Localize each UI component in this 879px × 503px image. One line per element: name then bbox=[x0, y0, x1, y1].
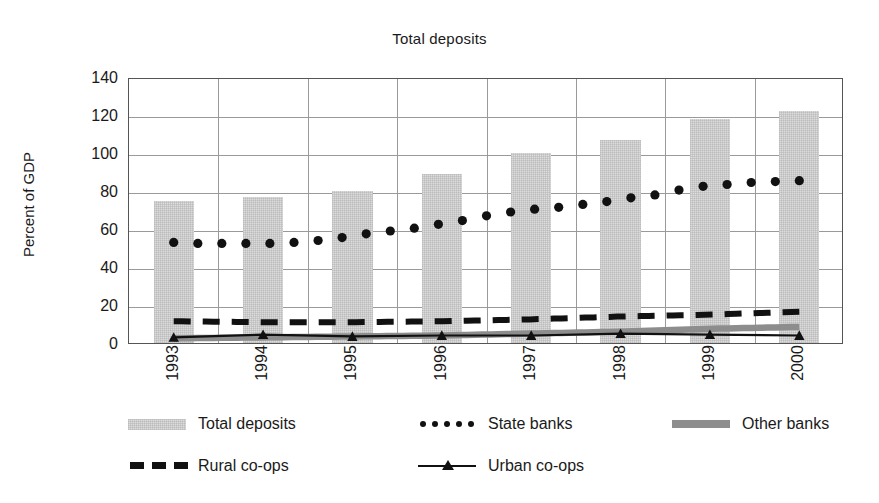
legend-item-label: State banks bbox=[488, 415, 573, 433]
state-banks-dot bbox=[241, 239, 250, 248]
state-banks-dot bbox=[530, 205, 539, 214]
legend-item[interactable]: Urban co-ops bbox=[418, 446, 584, 486]
legend-item-label: Other banks bbox=[742, 415, 829, 433]
legend-row: Rural co-opsUrban co-ops bbox=[0, 446, 879, 486]
other-banks-line bbox=[174, 327, 800, 339]
state-banks-dot bbox=[771, 177, 780, 186]
state-banks-dot bbox=[289, 238, 298, 247]
legend-item[interactable]: Other banks bbox=[672, 404, 829, 444]
state-banks-dot bbox=[747, 178, 756, 187]
plot-area bbox=[128, 78, 843, 344]
legend-swatch-state-banks bbox=[418, 415, 476, 433]
state-banks-dot bbox=[674, 186, 683, 195]
legend-swatch-urban-coops-marker bbox=[442, 460, 454, 470]
state-banks-dot bbox=[650, 190, 659, 199]
legend-swatch-rural-coops bbox=[128, 457, 186, 475]
state-banks-dot bbox=[795, 176, 804, 185]
legend-row: Total depositsState banksOther banks bbox=[0, 404, 879, 444]
y-tick-label: 0 bbox=[58, 336, 118, 352]
state-banks-dot bbox=[362, 229, 371, 238]
legend-item-label: Rural co-ops bbox=[198, 457, 289, 475]
state-banks-dot bbox=[386, 226, 395, 235]
state-banks-dot bbox=[338, 233, 347, 242]
state-banks-dot bbox=[602, 197, 611, 206]
state-banks-dot bbox=[626, 193, 635, 202]
state-banks-dot bbox=[193, 239, 202, 248]
state-banks-dot bbox=[699, 182, 708, 191]
state-banks-dot bbox=[169, 238, 178, 247]
legend-item[interactable]: Rural co-ops bbox=[128, 446, 289, 486]
y-tick-label: 100 bbox=[58, 146, 118, 162]
y-tick-label: 120 bbox=[58, 108, 118, 124]
state-banks-dot bbox=[723, 180, 732, 189]
state-banks-dot bbox=[434, 220, 443, 229]
chart-figure: Total deposits Percent of GDP 0204060801… bbox=[0, 0, 879, 503]
state-banks-dot bbox=[265, 239, 274, 248]
state-banks-dot bbox=[578, 200, 587, 209]
legend-swatch-total-deposits bbox=[128, 419, 186, 430]
line-series-layer bbox=[129, 79, 844, 345]
chart-legend: Total depositsState banksOther banksRura… bbox=[0, 404, 879, 499]
legend-item-label: Urban co-ops bbox=[488, 457, 584, 475]
state-banks-dot bbox=[458, 216, 467, 225]
y-tick-label: 20 bbox=[58, 298, 118, 314]
y-tick-label: 140 bbox=[58, 70, 118, 86]
state-banks-dot bbox=[314, 236, 323, 245]
legend-item[interactable]: Total deposits bbox=[128, 404, 296, 444]
state-banks-dots bbox=[169, 176, 804, 248]
legend-item[interactable]: State banks bbox=[418, 404, 573, 444]
state-banks-dot bbox=[554, 203, 563, 212]
legend-item-label: Total deposits bbox=[198, 415, 296, 433]
y-tick-label: 40 bbox=[58, 260, 118, 276]
state-banks-dot bbox=[506, 207, 515, 216]
state-banks-dot bbox=[410, 224, 419, 233]
plot-inner bbox=[129, 79, 842, 343]
legend-swatch-other-banks bbox=[672, 420, 730, 428]
state-banks-dot bbox=[482, 211, 491, 220]
rural-coops-line bbox=[174, 312, 800, 322]
state-banks-dot bbox=[217, 239, 226, 248]
y-tick-label: 60 bbox=[58, 222, 118, 238]
y-tick-label: 80 bbox=[58, 184, 118, 200]
